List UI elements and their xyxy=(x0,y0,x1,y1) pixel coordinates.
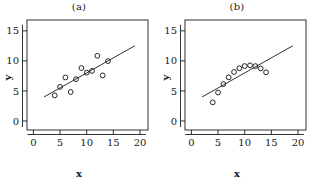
panel-a-xaxis-label: x xyxy=(0,168,158,179)
panel-b-data-point xyxy=(237,66,242,71)
panel-b-xtick-label: 10 xyxy=(238,137,251,148)
panel-a-ytick-label: 5 xyxy=(13,86,19,97)
panel-b-data-point xyxy=(248,63,253,68)
panel-a-ytick-label: 10 xyxy=(6,55,19,66)
plot-panel-a: (a) 05101520051015 x y xyxy=(0,0,158,188)
panel-b-xtick-label: 15 xyxy=(265,137,278,148)
panel-b-data-point xyxy=(232,70,237,75)
panel-a-data-point xyxy=(100,73,105,78)
figure-root: (a) 05101520051015 x y (b) 0510152005101… xyxy=(0,0,316,188)
panel-b-ytick-label: 10 xyxy=(164,55,177,66)
panel-b-yaxis-label: y xyxy=(160,75,171,81)
panel-a-xtick-label: 20 xyxy=(134,137,147,148)
panel-a-data-point xyxy=(68,90,73,95)
panel-a-xtick-label: 5 xyxy=(57,137,63,148)
panel-a-yaxis-label: y xyxy=(2,75,13,81)
panel-b-canvas: 05101520051015 xyxy=(158,0,316,188)
plot-panel-b: (b) 05101520051015 x y xyxy=(158,0,316,188)
panel-b-data-point xyxy=(242,64,247,69)
panel-b-fit-line xyxy=(202,46,293,97)
panel-b-xtick-label: 5 xyxy=(215,137,221,148)
panel-a-xtick-label: 0 xyxy=(30,137,36,148)
panel-b-ytick-label: 15 xyxy=(164,25,177,36)
panel-a-data-point xyxy=(63,75,68,80)
panel-b-data-point xyxy=(216,90,221,95)
panel-b-data-point xyxy=(264,70,269,75)
panel-a-xtick-label: 15 xyxy=(107,137,120,148)
panel-a-canvas: 05101520051015 xyxy=(0,0,158,188)
panel-b-xaxis-label: x xyxy=(158,168,316,179)
panel-b-data-point xyxy=(226,75,231,80)
panel-a-data-point xyxy=(52,93,57,98)
panel-a-data-point xyxy=(79,66,84,71)
panel-a-ytick-label: 0 xyxy=(13,116,19,127)
panel-b-data-point xyxy=(258,66,263,71)
panel-b-xtick-label: 0 xyxy=(188,137,194,148)
panel-a-xtick-label: 10 xyxy=(80,137,93,148)
panel-b-ytick-label: 0 xyxy=(171,116,177,127)
panel-b-data-point xyxy=(210,100,215,105)
panel-b-ytick-label: 5 xyxy=(171,86,177,97)
panel-a-ytick-label: 15 xyxy=(6,25,19,36)
panel-b-plot-frame xyxy=(185,20,306,130)
panel-b-xtick-label: 20 xyxy=(292,137,305,148)
panel-a-data-point xyxy=(95,53,100,58)
